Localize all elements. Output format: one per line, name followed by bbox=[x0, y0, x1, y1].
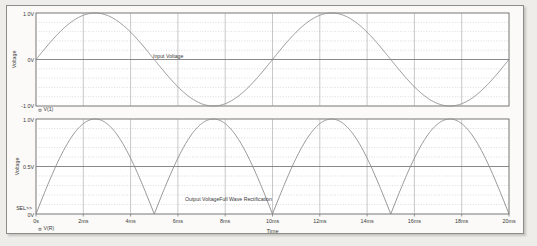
legend-marker-bottom bbox=[39, 228, 41, 230]
upper-ytick-zero: 0V bbox=[27, 57, 34, 63]
xtick-label-6ms: 6ms bbox=[173, 218, 183, 224]
annotation-input-voltage: Input Voltage bbox=[153, 53, 183, 59]
xtick-label-10ms: 10ms bbox=[266, 218, 279, 224]
waveform-svg: 1.0V0V-1.0V1.0V0.5V0VSEL>>VoltageVoltage… bbox=[7, 6, 523, 233]
sel-marker: SEL>> bbox=[16, 205, 32, 211]
legend-marker-top bbox=[39, 109, 41, 111]
xtick-label-2ms: 2ms bbox=[78, 218, 88, 224]
xtick-label-18ms: 18ms bbox=[455, 218, 468, 224]
legend-label-bottom: V(R) bbox=[44, 225, 55, 231]
xtick-label-4ms: 4ms bbox=[126, 218, 136, 224]
lower-ytick-max: 1.0V bbox=[23, 117, 34, 123]
xtick-label-8ms: 8ms bbox=[220, 218, 230, 224]
xtick-label-14ms: 14ms bbox=[361, 218, 374, 224]
xtick-label-12ms: 12ms bbox=[313, 218, 326, 224]
probe-plot-canvas: 1.0V0V-1.0V1.0V0.5V0VSEL>>VoltageVoltage… bbox=[7, 6, 523, 233]
plot-page: 1.0V0V-1.0V1.0V0.5V0VSEL>>VoltageVoltage… bbox=[6, 5, 524, 234]
lower-ytick-mid: 0.5V bbox=[23, 164, 34, 170]
legend-label-top: V(1) bbox=[44, 106, 54, 112]
xtick-label-0s: 0s bbox=[33, 218, 39, 224]
lower-yaxis-title: Voltage bbox=[14, 158, 20, 176]
xaxis-title: Time bbox=[266, 228, 278, 233]
upper-ytick-max: 1.0V bbox=[23, 11, 34, 17]
xtick-label-20ms: 20ms bbox=[502, 218, 515, 224]
screenshot-root: 1.0V0V-1.0V1.0V0.5V0VSEL>>VoltageVoltage… bbox=[0, 0, 537, 246]
annotation-output-voltage: Output VoltageFull Wave Rectification bbox=[185, 196, 272, 202]
upper-yaxis-title: Voltage bbox=[11, 51, 17, 69]
upper-ytick-min: -1.0V bbox=[21, 103, 34, 109]
xtick-label-16ms: 16ms bbox=[408, 218, 421, 224]
